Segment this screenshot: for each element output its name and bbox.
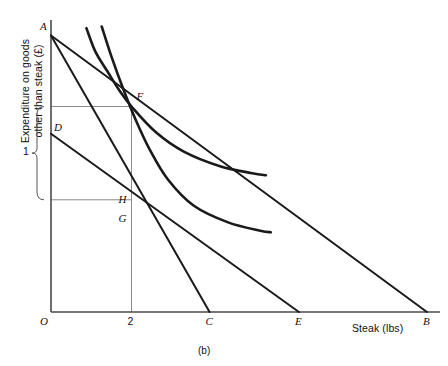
indifference-curve-lower-curve-through-G — [102, 26, 271, 232]
brace-bracket — [32, 106, 44, 199]
budget-lines-group — [51, 35, 427, 312]
axis-origin-label: O — [40, 315, 48, 327]
point-label-g: G — [119, 212, 127, 224]
y-tick-label-1: 1 — [23, 145, 29, 157]
figure-container: Expenditure on goods other than steak (£… — [0, 0, 448, 366]
point-label-f: F — [137, 90, 144, 102]
indifference-curve-upper-curve-through-F — [86, 28, 266, 175]
budget-line-ac — [51, 35, 210, 312]
x-tick-label-e: E — [295, 315, 302, 327]
budget-line-de — [51, 134, 299, 312]
plot-svg — [0, 0, 448, 366]
x-tick-label-b: B — [423, 315, 430, 327]
x-tick-label-2: 2 — [128, 315, 134, 327]
axes-group — [51, 20, 440, 312]
gridlines-group — [51, 106, 132, 312]
point-label-d: D — [54, 121, 62, 133]
point-label-a: A — [40, 20, 47, 32]
x-tick-label-c: C — [206, 315, 213, 327]
point-label-h: H — [119, 193, 127, 205]
